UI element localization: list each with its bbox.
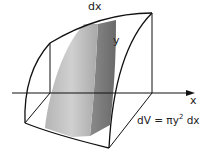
formula-dx: dx [183, 114, 199, 126]
solid-left-edge [25, 43, 50, 123]
volume-formula: dV = πy2 dx [137, 113, 200, 126]
x-axis-label: x [190, 94, 197, 107]
y-label: y [113, 34, 120, 47]
solid-of-revolution-diagram [0, 0, 205, 159]
dx-label: dx [88, 0, 102, 13]
formula-lhs: dV = [137, 114, 166, 126]
